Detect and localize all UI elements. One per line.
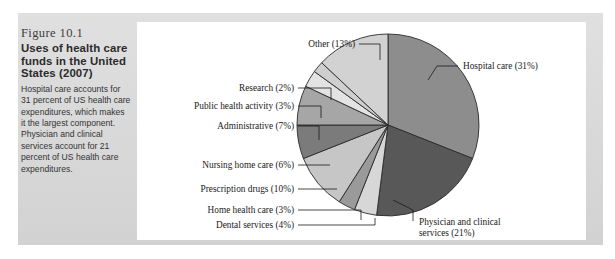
figure-title: Uses of health care funds in the United … — [21, 42, 131, 80]
figure-caption-column: Figure 10.1 Uses of health care funds in… — [21, 26, 131, 231]
label-prescription-drugs: Prescription drugs (10%) — [201, 184, 294, 195]
figure-root: Figure 10.1 Uses of health care funds in… — [0, 0, 615, 259]
label-physician-line2: services (21%) — [419, 228, 475, 239]
figure-number: Figure 10.1 — [21, 26, 131, 41]
label-nursing-home-care: Nursing home care (6%) — [202, 160, 294, 171]
leader-line-dental — [298, 218, 375, 225]
leader-line-home-health — [298, 210, 361, 220]
label-physician-line1: Physician and clinical — [419, 217, 501, 227]
figure-description: Hospital care accounts for 31 percent of… — [21, 84, 131, 175]
label-administrative: Administrative (7%) — [217, 121, 294, 132]
label-public-health-activity: Public health activity (3%) — [194, 101, 294, 112]
label-dental-services: Dental services (4%) — [216, 220, 294, 231]
label-other: Other (13%) — [308, 39, 355, 50]
pie-chart-svg: Hospital care (31%)Physician and clinica… — [137, 22, 586, 240]
label-hospital-care: Hospital care (31%) — [463, 61, 538, 72]
pie-chart-panel: Hospital care (31%)Physician and clinica… — [137, 22, 586, 240]
label-research: Research (2%) — [239, 83, 294, 94]
label-home-health-care: Home health care (3%) — [208, 205, 294, 216]
